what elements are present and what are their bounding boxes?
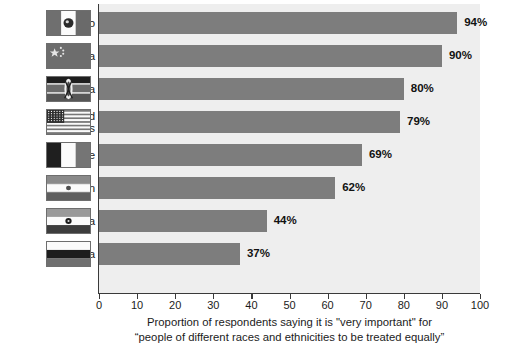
bar-russia: [99, 243, 240, 265]
bar-value-label: 69%: [369, 148, 392, 160]
bar-france: [99, 144, 362, 166]
x-tick-label: 90: [436, 299, 448, 311]
caption-line-1: Proportion of respondents saying it is "…: [99, 315, 480, 330]
x-tick-label: 100: [471, 299, 489, 311]
bar-india: [99, 210, 267, 232]
x-tick-label: 50: [283, 299, 295, 311]
bar-mexico: [99, 12, 457, 34]
kenya-flag: [46, 76, 91, 102]
united-states-flag: [46, 109, 91, 135]
x-tick-label: 0: [96, 299, 102, 311]
x-tick-label: 60: [321, 299, 333, 311]
india-flag: [46, 208, 91, 234]
bar-kenya: [99, 78, 404, 100]
bar-value-label: 44%: [274, 214, 297, 226]
chart-caption: Proportion of respondents saying it is "…: [99, 315, 480, 345]
bar-china: [99, 45, 442, 67]
bar-value-label: 90%: [449, 49, 472, 61]
x-tick-label: 70: [360, 299, 372, 311]
bar-value-label: 94%: [464, 16, 487, 28]
bar-value-label: 37%: [247, 247, 270, 259]
russia-flag: [46, 241, 91, 267]
china-flag: [46, 43, 91, 69]
x-tick-label: 30: [207, 299, 219, 311]
bar-value-label: 62%: [342, 181, 365, 193]
bar-united-states: [99, 111, 400, 133]
x-tick-label: 80: [398, 299, 410, 311]
x-tick-label: 20: [169, 299, 181, 311]
iran-flag: [46, 175, 91, 201]
mexico-flag: [46, 10, 91, 36]
bar-iran: [99, 177, 335, 199]
caption-line-2: “people of different races and ethniciti…: [99, 330, 480, 345]
x-tick-label: 10: [131, 299, 143, 311]
bar-value-label: 79%: [407, 115, 430, 127]
bar-chart: MexicoChinaKenyaUnited StatesFranceIranI…: [0, 0, 514, 353]
x-tick-label: 40: [245, 299, 257, 311]
france-flag: [46, 142, 91, 168]
bar-value-label: 80%: [411, 82, 434, 94]
